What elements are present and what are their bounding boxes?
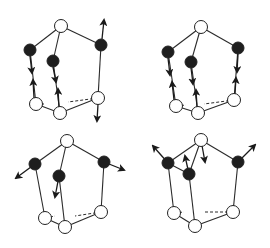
displacement-arrow-icon <box>196 90 197 107</box>
displacement-arrow-icon <box>97 104 98 121</box>
white-atom <box>39 212 52 225</box>
bond-line <box>168 163 174 213</box>
black-atom <box>185 56 197 68</box>
black-atom <box>232 156 244 168</box>
displacement-arrow-icon <box>102 20 104 39</box>
bond-line <box>59 176 65 227</box>
white-atom <box>170 100 183 113</box>
white-atom <box>195 134 208 147</box>
black-atom <box>24 44 36 56</box>
white-atom <box>195 21 208 34</box>
black-atom <box>162 46 174 58</box>
panel-bottom-left <box>16 135 124 234</box>
white-atom <box>95 206 108 219</box>
white-atom <box>168 207 181 220</box>
black-atom <box>53 170 65 182</box>
white-atom <box>227 206 240 219</box>
white-atom <box>61 135 74 148</box>
panel-bottom-right <box>153 134 255 233</box>
white-atom <box>59 221 72 234</box>
black-atom <box>232 42 244 54</box>
white-atom <box>55 20 68 33</box>
panel-top-left <box>24 20 107 122</box>
white-atom <box>189 220 202 233</box>
bond-line <box>98 45 101 98</box>
black-atom <box>95 39 107 51</box>
black-atom <box>98 156 110 168</box>
panel-top-right <box>162 21 244 120</box>
bond-line <box>233 162 238 212</box>
white-atom <box>54 107 67 120</box>
vibrational-modes-figure <box>0 0 270 248</box>
diagram-canvas <box>0 0 270 248</box>
bond-line <box>168 52 176 106</box>
black-atom <box>29 158 41 170</box>
white-atom <box>30 98 43 111</box>
bond-line <box>189 174 195 226</box>
black-atom <box>47 55 59 67</box>
white-atom <box>228 94 241 107</box>
bond-line <box>101 162 104 212</box>
bond-line <box>35 164 45 218</box>
white-atom <box>192 107 205 120</box>
white-atom <box>92 92 105 105</box>
black-atom <box>162 157 174 169</box>
displacement-arrow-icon <box>58 89 59 107</box>
black-atom <box>183 168 195 180</box>
